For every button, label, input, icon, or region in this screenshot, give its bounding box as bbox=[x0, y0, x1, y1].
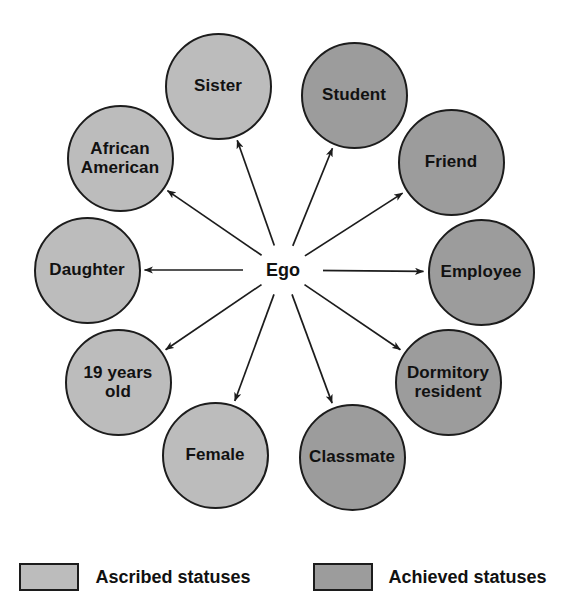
status-node-label: Classmate bbox=[305, 447, 399, 466]
arrow-to-classmate bbox=[292, 294, 332, 403]
status-node-label: Student bbox=[318, 85, 390, 104]
legend-swatch-achieved bbox=[313, 563, 373, 591]
arrow-to-sister bbox=[237, 140, 274, 245]
status-node-employee[interactable]: Employee bbox=[428, 219, 535, 326]
status-node-label: 19 years old bbox=[80, 363, 157, 401]
legend-label-achieved: Achieved statuses bbox=[389, 567, 547, 588]
arrow-to-african-american bbox=[167, 191, 261, 256]
arrow-to-nineteen-years-old bbox=[166, 285, 262, 350]
status-node-classmate[interactable]: Classmate bbox=[299, 404, 406, 511]
status-node-label: Female bbox=[181, 445, 248, 464]
legend-swatch-ascribed bbox=[19, 563, 79, 591]
status-node-dormitory-resident[interactable]: Dormitory resident bbox=[395, 329, 502, 436]
status-node-nineteen-years-old[interactable]: 19 years old bbox=[65, 329, 172, 436]
status-node-sister[interactable]: Sister bbox=[165, 33, 272, 140]
status-node-african-american[interactable]: African American bbox=[67, 105, 174, 212]
legend-item-achieved: Achieved statuses bbox=[313, 563, 547, 591]
status-node-label: Sister bbox=[190, 76, 246, 95]
status-node-label: African American bbox=[77, 139, 163, 177]
status-node-label: Dormitory resident bbox=[403, 363, 493, 401]
status-node-daughter[interactable]: Daughter bbox=[34, 217, 141, 324]
arrow-to-employee bbox=[309, 270, 424, 271]
status-node-student[interactable]: Student bbox=[301, 42, 408, 149]
legend: Ascribed statuses Achieved statuses bbox=[0, 563, 566, 591]
status-node-label: Friend bbox=[421, 152, 482, 171]
arrow-to-friend bbox=[305, 193, 403, 256]
arrow-to-dormitory-resident bbox=[305, 285, 401, 350]
arrow-to-female bbox=[235, 294, 274, 401]
status-node-friend[interactable]: Friend bbox=[398, 109, 505, 216]
legend-item-ascribed: Ascribed statuses bbox=[19, 563, 250, 591]
status-node-female[interactable]: Female bbox=[162, 402, 269, 509]
legend-label-ascribed: Ascribed statuses bbox=[95, 567, 250, 588]
arrow-to-student bbox=[293, 148, 333, 246]
ego-label: Ego bbox=[243, 257, 323, 283]
status-set-diagram: SisterStudentAfrican AmericanFriendDaugh… bbox=[0, 0, 566, 614]
status-node-label: Employee bbox=[436, 262, 525, 281]
status-node-label: Daughter bbox=[45, 260, 128, 279]
